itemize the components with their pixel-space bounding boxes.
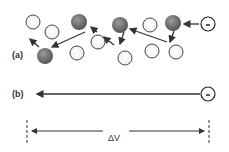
electron-a [201, 17, 215, 31]
panel-a-label: (a) [12, 50, 23, 60]
electron-drift-diagram [0, 0, 229, 152]
voltage-label: ΔV [108, 133, 120, 143]
electron-b [201, 87, 215, 101]
panel-b-label: (b) [12, 89, 24, 99]
